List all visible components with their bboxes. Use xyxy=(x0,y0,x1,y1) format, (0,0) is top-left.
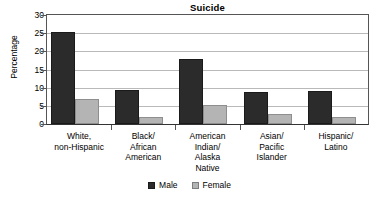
x-tick-label: American Indian/ Alaska Native xyxy=(175,131,239,173)
x-tick-label: Black/ African American xyxy=(111,131,175,163)
bar-male xyxy=(244,92,268,124)
legend-label: Female xyxy=(203,181,231,190)
bar-male xyxy=(179,59,203,124)
y-tick-mark xyxy=(41,15,46,16)
x-tick-mark xyxy=(111,125,112,130)
y-tick-label: 25 xyxy=(16,29,44,37)
y-tick-mark xyxy=(41,51,46,52)
bar-male xyxy=(51,32,75,124)
bar-group xyxy=(111,15,175,124)
x-tick-label: Asian/ Pacific Islander xyxy=(240,131,304,163)
legend-item-male: Male xyxy=(148,181,177,190)
bar-chart: Suicide Percentage 051015202530 White, n… xyxy=(0,0,379,200)
bar-female xyxy=(203,105,227,124)
bar-male xyxy=(308,91,332,124)
bar-female xyxy=(332,117,356,124)
y-tick-label: 5 xyxy=(16,102,44,110)
y-tick-mark xyxy=(41,33,46,34)
bar-group xyxy=(240,15,304,124)
chart-title: Suicide xyxy=(46,2,369,13)
bar-female xyxy=(75,99,99,124)
legend-item-female: Female xyxy=(192,181,231,190)
chart-legend: MaleFemale xyxy=(0,181,379,190)
x-tick-mark xyxy=(240,125,241,130)
bars-layer xyxy=(47,15,368,124)
bar-male xyxy=(115,90,139,124)
legend-swatch-female-icon xyxy=(192,182,199,189)
y-tick-label: 20 xyxy=(16,47,44,55)
y-tick-label: 30 xyxy=(16,11,44,19)
x-tick-mark xyxy=(304,125,305,130)
y-tick-label: 15 xyxy=(16,66,44,74)
y-tick-mark xyxy=(41,106,46,107)
x-tick-mark xyxy=(175,125,176,130)
bar-female xyxy=(139,117,163,124)
x-tick-label: White, non-Hispanic xyxy=(47,131,111,152)
bar-group xyxy=(175,15,239,124)
y-tick-mark xyxy=(41,70,46,71)
bar-group xyxy=(47,15,111,124)
bar-group xyxy=(304,15,368,124)
y-tick-label: 10 xyxy=(16,84,44,92)
legend-swatch-male-icon xyxy=(148,182,155,189)
y-tick-mark xyxy=(41,124,46,125)
bar-female xyxy=(268,114,292,124)
x-tick-label: Hispanic/ Latino xyxy=(304,131,368,152)
legend-label: Male xyxy=(159,181,177,190)
y-tick-mark xyxy=(41,88,46,89)
y-tick-label: 0 xyxy=(16,120,44,128)
